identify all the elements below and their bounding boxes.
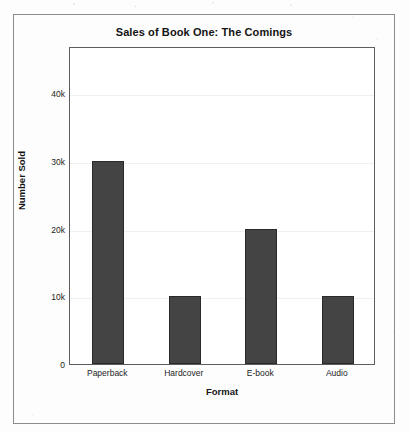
bar-paperback [92, 161, 124, 364]
x-axis-tick-labels: PaperbackHardcoverE-bookAudio [69, 368, 375, 384]
y-tick-0: 0 [31, 360, 65, 370]
y-tick-30k: 30k [31, 157, 65, 167]
x-tick-audio: Audio [326, 368, 348, 378]
bar-series [70, 48, 374, 364]
y-tick-10k: 10k [31, 292, 65, 302]
y-axis-title: Number Sold [16, 136, 27, 226]
x-axis-title: Format [69, 386, 375, 397]
chart-title: Sales of Book One: The Comings [13, 26, 395, 38]
x-tick-e-book: E-book [247, 368, 274, 378]
x-tick-paperback: Paperback [87, 368, 128, 378]
bar-audio [322, 296, 354, 364]
bar-e-book [245, 229, 277, 364]
bar-hardcover [169, 296, 201, 364]
y-tick-20k: 20k [31, 225, 65, 235]
plot-area [69, 47, 375, 365]
scanned-page: Sales of Book One: The Comings Number So… [0, 0, 410, 432]
plot-inner [70, 48, 374, 364]
y-tick-40k: 40k [31, 89, 65, 99]
x-tick-hardcover: Hardcover [164, 368, 203, 378]
y-axis-tick-labels: 010k20k30k40k [27, 47, 65, 365]
